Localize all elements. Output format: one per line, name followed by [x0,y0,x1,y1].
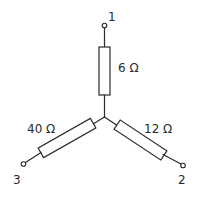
terminal-3 [21,162,26,167]
resistor-12-ohm-label: 12 Ω [144,122,172,136]
terminal-1 [102,23,107,28]
terminal-1-label: 1 [108,10,116,24]
wire-junction-to-r3 [93,117,105,124]
terminal-2-label: 2 [178,173,186,187]
branch-2: 2 12 Ω [105,117,186,187]
resistor-6-ohm [99,47,110,95]
wire-junction-to-r2 [105,117,119,126]
wire-r3-to-terminal3 [26,153,42,163]
terminal-2 [181,163,186,168]
star-resistor-network: 1 6 Ω 3 40 Ω 2 12 Ω [0,0,198,197]
resistor-40-ohm-label: 40 Ω [27,122,55,136]
resistor-6-ohm-label: 6 Ω [118,61,139,75]
wire-r2-to-terminal2 [163,155,181,165]
branch-3: 3 40 Ω [13,117,105,187]
branch-1: 1 6 Ω [99,10,139,117]
junction-node [104,116,106,118]
terminal-3-label: 3 [13,173,21,187]
